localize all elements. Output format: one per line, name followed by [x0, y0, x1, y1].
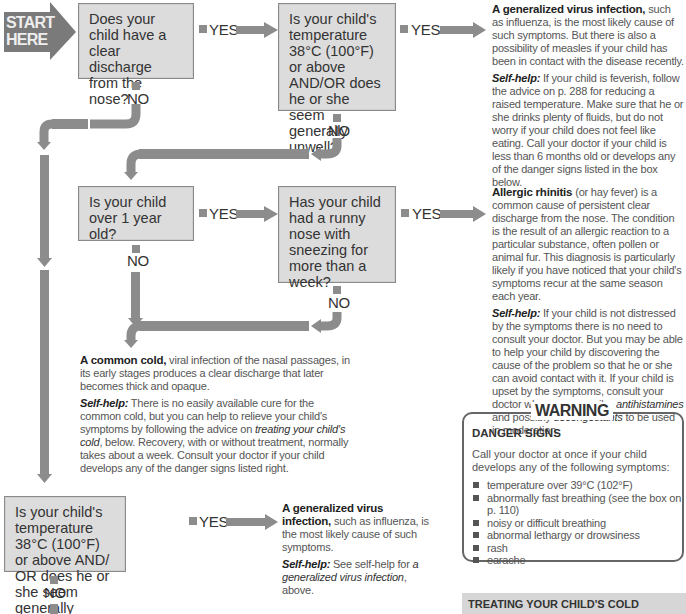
yes-marker-icon — [401, 209, 409, 217]
question-over-one-year: Is your child over 1 year old? — [78, 186, 194, 241]
danger-item: temperature over 39°C (102°F) — [472, 479, 682, 492]
danger-item: rash — [472, 542, 682, 555]
danger-item: earache — [472, 554, 682, 567]
arrow-elbow-icon — [125, 138, 350, 188]
danger-intro: Call your doctor at once if your child d… — [472, 448, 672, 474]
no-marker-icon — [132, 82, 140, 90]
no-marker-icon — [50, 576, 58, 584]
danger-item: abnormal lethargy or drowsiness — [472, 529, 682, 542]
no-marker-icon — [333, 114, 341, 122]
yes-marker-icon — [400, 25, 408, 33]
flow-line — [40, 155, 49, 260]
question-runny-nose-week: Has your child had a runny nose with sne… — [278, 186, 396, 283]
no-marker-icon — [50, 604, 58, 614]
yes-marker-icon — [199, 209, 207, 217]
yes-label: YES — [209, 21, 238, 38]
question-clear-discharge: Does your child have a clear discharge f… — [78, 3, 194, 79]
danger-item: abnormally fast breathing (see the box o… — [472, 492, 682, 517]
flow-line — [40, 270, 49, 475]
start-label: STARTHERE — [6, 14, 54, 48]
outcome-generalized-virus-2: A generalized virus infection, such as i… — [282, 502, 432, 601]
yes-label: YES — [411, 21, 440, 38]
arrow-right-icon — [236, 206, 278, 222]
yes-label: YES — [412, 205, 441, 222]
arrow-right-icon — [440, 22, 486, 38]
question-temperature-unwell-2: Is your child's temperature 38°C (100°F)… — [4, 496, 126, 572]
yes-marker-icon — [189, 517, 197, 525]
warning-box: DANGER SIGNS Call your doctor at once if… — [462, 412, 684, 562]
no-label: NO — [44, 584, 66, 601]
danger-signs-list: temperature over 39°C (102°F) abnormally… — [472, 479, 682, 567]
arrow-right-icon — [226, 514, 278, 530]
no-label: NO — [328, 122, 350, 139]
arrow-right-icon — [440, 206, 486, 222]
warning-title: WARNING — [531, 402, 613, 420]
yes-marker-icon — [199, 25, 207, 33]
danger-item: noisy or difficult breathing — [472, 517, 682, 530]
no-marker-icon — [333, 286, 341, 294]
outcome-generalized-virus: A generalized virus infection, such as i… — [492, 3, 684, 193]
question-temperature-unwell: Is your child's temperature 38°C (100°F)… — [278, 3, 396, 111]
no-label: NO — [127, 252, 149, 269]
no-label: NO — [328, 294, 350, 311]
outcome-common-cold: A common cold, viral infection of the na… — [80, 354, 355, 479]
yes-label: YES — [199, 513, 228, 530]
arrow-down-icon — [37, 258, 53, 268]
treating-cold-heading: TREATING YOUR CHILD'S COLD — [462, 593, 686, 614]
yes-label: YES — [209, 205, 238, 222]
arrow-down-icon — [37, 474, 53, 484]
arrow-right-icon — [236, 22, 278, 38]
danger-signs-heading: DANGER SIGNS — [472, 427, 561, 439]
